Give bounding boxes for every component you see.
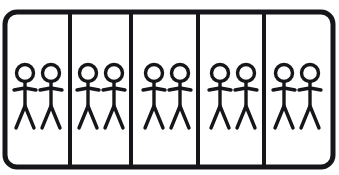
figure-arms: [40, 88, 62, 90]
figure-arms: [14, 88, 36, 90]
figure-arms: [103, 88, 125, 90]
figure-arms: [299, 88, 321, 90]
diagram-canvas: Ten stick figures arranged in five equal…: [0, 0, 339, 175]
figure-arms: [143, 88, 165, 90]
stick-figure-groups-diagram: Ten stick figures arranged in five equal…: [0, 0, 339, 175]
figure-arms: [77, 88, 99, 90]
figure-arms: [273, 88, 295, 90]
figure-arms: [235, 88, 257, 90]
figure-arms: [169, 88, 191, 90]
figure-arms: [209, 88, 231, 90]
